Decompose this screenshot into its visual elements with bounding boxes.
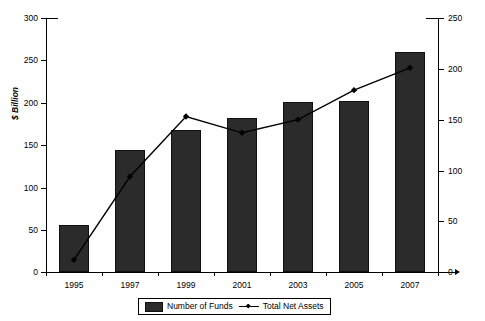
left-tick-50 [41, 230, 46, 231]
x-tick-3 [214, 272, 215, 276]
right-tick-label-0: 0 [448, 268, 474, 277]
x-axis-label-2001: 2001 [222, 280, 262, 290]
line-marker-1999 [183, 113, 189, 119]
right-tick-label-50: 50 [448, 217, 474, 226]
bar-1997 [115, 150, 145, 272]
left-tick-150 [41, 145, 46, 146]
x-tick-end [438, 272, 439, 276]
line-diamond-swatch-icon [239, 303, 259, 311]
x-axis-label-2003: 2003 [278, 280, 318, 290]
x-axis-line [46, 272, 456, 273]
right-tick-label-100: 100 [448, 167, 474, 176]
right-tick-0 [439, 272, 444, 273]
bar-swatch-icon [145, 302, 163, 312]
left-tick-200 [41, 103, 46, 104]
right-tick-50 [439, 221, 444, 222]
left-tick-label-300: 300 [16, 14, 38, 23]
top-axis-stub-right [426, 18, 439, 19]
line-marker-2005 [351, 87, 357, 93]
right-tick-200 [439, 69, 444, 70]
bar-2001 [227, 118, 257, 272]
x-tick-2 [158, 272, 159, 276]
left-tick-label-150: 150 [16, 141, 38, 150]
x-axis-label-2005: 2005 [334, 280, 374, 290]
left-tick-label-200: 200 [16, 99, 38, 108]
top-axis-stub-left [46, 18, 58, 19]
x-tick-0 [46, 272, 47, 276]
right-tick-250 [439, 18, 444, 19]
chart-legend: Number of Funds Total Net Assets [138, 298, 331, 315]
right-tick-150 [439, 120, 444, 121]
bar-2007 [395, 52, 425, 272]
legend-item-total-net-assets: Total Net Assets [239, 301, 324, 312]
bar-2005 [339, 101, 369, 272]
left-tick-100 [41, 188, 46, 189]
right-tick-100 [439, 171, 444, 172]
bar-1995 [59, 225, 89, 272]
left-tick-250 [41, 60, 46, 61]
bar-2003 [283, 102, 313, 272]
left-tick-label-50: 50 [16, 226, 38, 235]
x-tick-4 [270, 272, 271, 276]
right-tick-label-250: 250 [448, 14, 474, 23]
legend-label-total-net-assets: Total Net Assets [263, 301, 324, 312]
legend-label-number-of-funds: Number of Funds [167, 301, 233, 312]
x-tick-5 [326, 272, 327, 276]
right-tick-label-150: 150 [448, 116, 474, 125]
x-axis-label-2007: 2007 [390, 280, 430, 290]
x-tick-6 [382, 272, 383, 276]
left-tick-300 [41, 18, 46, 19]
chart-container: $ Billion 300 250 200 150 100 50 0 250 2… [0, 0, 485, 321]
x-axis-label-1997: 1997 [110, 280, 150, 290]
legend-item-number-of-funds: Number of Funds [145, 301, 233, 312]
right-tick-label-200: 200 [448, 65, 474, 74]
left-tick-label-250: 250 [16, 56, 38, 65]
left-axis-line [46, 18, 47, 273]
x-axis-label-1995: 1995 [54, 280, 94, 290]
left-tick-label-0: 0 [16, 268, 38, 277]
right-axis-line [438, 18, 439, 273]
left-tick-label-100: 100 [16, 184, 38, 193]
x-axis-label-1999: 1999 [166, 280, 206, 290]
bar-1999 [171, 130, 201, 272]
x-tick-1 [102, 272, 103, 276]
